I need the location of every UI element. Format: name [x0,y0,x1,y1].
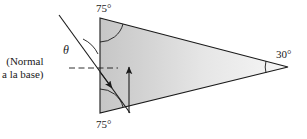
diagram-canvas [0,0,307,139]
normal-caption: (Normal a la base) [2,55,44,80]
angle-label-right: 30° [276,48,291,61]
angle-label-bottom: 75° [96,118,111,131]
normal-caption-line-2: a la base) [2,68,44,81]
theta-label: θ [63,44,69,58]
angle-label-top: 75° [96,2,111,15]
normal-caption-line-1: (Normal [2,55,44,68]
prism-triangle [100,18,288,113]
prism-refraction-diagram: 75° 75° 30° θ (Normal a la base) [0,0,307,139]
